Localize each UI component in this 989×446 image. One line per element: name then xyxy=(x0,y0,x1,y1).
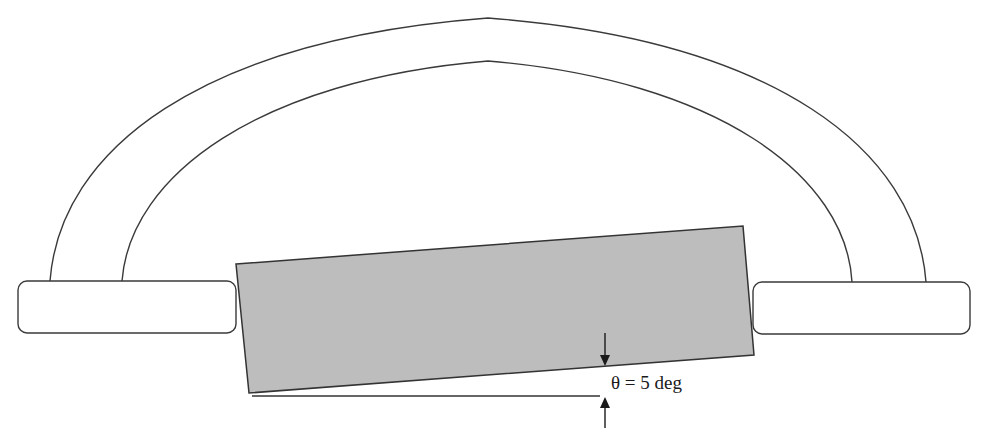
up-arrow xyxy=(600,397,610,428)
left-support-pad xyxy=(18,281,236,333)
tilted-block-diagram: θ = 5 deg xyxy=(0,0,989,446)
outer-arch xyxy=(50,18,926,282)
right-support-pad xyxy=(753,282,970,334)
arrow-head-up-icon xyxy=(600,397,610,408)
tilted-block xyxy=(236,226,754,393)
angle-label: θ = 5 deg xyxy=(611,372,682,393)
